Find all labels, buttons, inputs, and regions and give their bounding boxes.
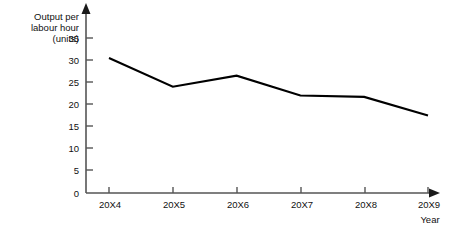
y-tick-label-10: 10	[68, 143, 79, 154]
y-axis-ticks	[86, 38, 93, 170]
data-series-line	[109, 58, 428, 116]
y-axis-title-line-1: Output per	[34, 11, 79, 22]
x-tick-label-20x5: 20X5	[163, 199, 185, 210]
line-chart: 35 30 25 20 15 10 5 0 Output per labour …	[0, 0, 450, 229]
x-tick-label-20x9: 20X9	[418, 199, 440, 210]
x-axis-tick-labels: 20X4 20X5 20X6 20X7 20X8 20X9	[99, 199, 440, 210]
y-tick-label-30: 30	[68, 55, 79, 66]
y-tick-label-15: 15	[68, 121, 79, 132]
x-axis-arrow-icon	[429, 189, 440, 198]
y-tick-label-20: 20	[68, 99, 79, 110]
y-axis-title-line-3: (units)	[53, 33, 79, 44]
y-tick-label-0: 0	[74, 188, 79, 199]
x-tick-label-20x7: 20X7	[291, 199, 313, 210]
chart-screenshot: 35 30 25 20 15 10 5 0 Output per labour …	[0, 0, 450, 229]
y-axis-title-line-2: labour hour	[31, 22, 79, 33]
y-tick-label-5: 5	[74, 165, 79, 176]
clipped-header-text	[0, 0, 450, 5]
y-tick-label-25: 25	[68, 77, 79, 88]
y-axis	[82, 3, 91, 193]
x-tick-label-20x8: 20X8	[355, 199, 377, 210]
x-axis-ticks	[109, 187, 428, 193]
x-tick-label-20x6: 20X6	[227, 199, 249, 210]
y-axis-tick-labels: 35 30 25 20 15 10 5 0	[68, 33, 79, 199]
x-axis-title: Year	[420, 214, 439, 225]
x-tick-label-20x4: 20X4	[99, 199, 121, 210]
x-axis	[86, 189, 440, 198]
y-axis-title: Output per labour hour (units)	[31, 11, 79, 44]
